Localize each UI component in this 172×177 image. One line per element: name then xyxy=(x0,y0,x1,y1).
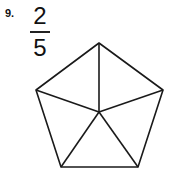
divider-line xyxy=(36,90,99,112)
divider-line xyxy=(99,90,163,112)
divider-line xyxy=(61,112,99,167)
pentagon-figure xyxy=(0,0,172,177)
divider-line xyxy=(99,112,138,167)
